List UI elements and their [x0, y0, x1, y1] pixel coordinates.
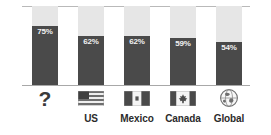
axis-slot-canada: Canada — [160, 86, 206, 125]
bar-value-label-2: 62% — [124, 37, 150, 46]
bar-slot-4: 54% — [216, 6, 242, 85]
axis-label-us: US — [68, 113, 114, 125]
axis-label-canada: Canada — [160, 113, 206, 125]
axis-label-global: Global — [206, 113, 252, 125]
bar-value-label-1: 62% — [78, 37, 104, 46]
bar-stack-0: 75% — [32, 6, 58, 85]
bar-value-label-0: 75% — [32, 27, 58, 36]
bar-slot-0: 75% — [32, 6, 58, 85]
bar-remainder-segment-3 — [170, 6, 196, 38]
bar-stack-2: 62% — [124, 6, 150, 85]
stacked-bar-chart: 75% 62% 62% 59 — [0, 0, 271, 135]
axis-label-mexico: Mexico — [114, 113, 160, 125]
flag-canada-icon — [160, 86, 206, 110]
flag-us-icon — [68, 86, 114, 110]
chart-plot-area: 75% 62% 62% 59 — [22, 6, 250, 85]
question-mark-icon: ? — [22, 86, 68, 110]
question-mark-glyph: ? — [39, 88, 52, 109]
bar-slot-3: 59% — [170, 6, 196, 85]
axis-slot-us: US — [68, 86, 114, 125]
bar-fill-segment-1[interactable]: 62% — [78, 36, 104, 85]
bar-fill-segment-0[interactable]: 75% — [32, 26, 58, 85]
bar-fill-segment-2[interactable]: 62% — [124, 36, 150, 85]
bar-stack-1: 62% — [78, 6, 104, 85]
globe-icon — [206, 86, 252, 110]
bar-remainder-segment-0 — [32, 6, 58, 26]
axis-slot-mexico: Mexico — [114, 86, 160, 125]
bar-value-label-4: 54% — [216, 43, 242, 52]
flag-mexico-icon — [114, 86, 160, 110]
bar-fill-segment-4[interactable]: 54% — [216, 42, 242, 85]
bar-remainder-segment-2 — [124, 6, 150, 36]
bar-remainder-segment-1 — [78, 6, 104, 36]
bar-stack-3: 59% — [170, 6, 196, 85]
category-axis: ? US — [22, 86, 250, 135]
bar-remainder-segment-4 — [216, 6, 242, 42]
axis-slot-unknown: ? — [22, 86, 68, 113]
bar-slot-2: 62% — [124, 6, 150, 85]
bar-fill-segment-3[interactable]: 59% — [170, 38, 196, 85]
bar-stack-4: 54% — [216, 6, 242, 85]
axis-slot-global: Global — [206, 86, 252, 125]
bar-value-label-3: 59% — [170, 39, 196, 48]
bar-slot-1: 62% — [78, 6, 104, 85]
